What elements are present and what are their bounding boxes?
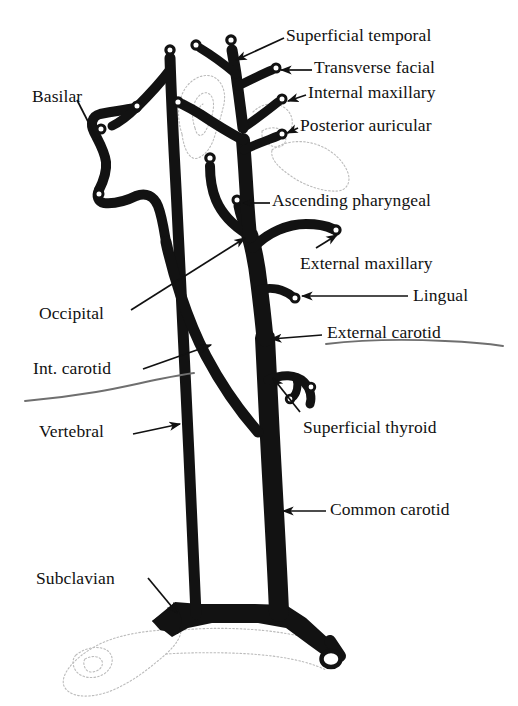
posterior-auricular-lumen-dot: [278, 130, 286, 138]
basilar-inferior-loop: [98, 190, 166, 242]
label-common-carotid: Common carotid: [330, 501, 450, 519]
leader-superficial-temporal: [236, 38, 284, 60]
label-ascending-pharyngeal: Ascending pharyngeal: [272, 192, 431, 210]
transverse-facial-artery: [238, 70, 272, 86]
label-lingual: Lingual: [413, 287, 468, 305]
leader-external-carotid: [271, 335, 322, 339]
label-vertebral: Vertebral: [39, 423, 104, 441]
leader-internal-maxillary: [288, 95, 306, 101]
figure-canvas: Superficial temporal Transverse facial I…: [0, 0, 518, 706]
vessel-lumen-opening: [322, 651, 341, 667]
clavicle-head-outline: [73, 648, 112, 678]
superficial-thyroid-lumen-dot-a: [307, 383, 315, 391]
label-superficial-temporal: Superficial temporal: [286, 27, 431, 45]
label-posterior-auricular: Posterior auricular: [300, 117, 432, 135]
subclavian-stump: [152, 604, 182, 634]
label-subclavian: Subclavian: [36, 570, 115, 588]
label-transverse-facial: Transverse facial: [314, 59, 435, 77]
basilar-tip-lumen-dot-left: [97, 125, 105, 133]
posterior-occipital-lumen-dot: [174, 98, 182, 106]
posterior-occipital-branch: [182, 104, 243, 140]
basilar-inferior-lumen-dot: [95, 190, 103, 198]
leader-basilar: [77, 100, 101, 147]
superficial-temporal-lumen-dot: [227, 36, 235, 44]
clavicle-head-inner-outline: [84, 657, 103, 672]
label-external-maxillary: External maxillary: [300, 255, 433, 273]
basilar-tip-lumen-dot-right: [133, 102, 141, 110]
label-basilar: Basilar: [32, 88, 82, 106]
external-maxillary-lumen-dot: [332, 226, 340, 234]
ascending-pharyngeal-lumen-dot: [233, 196, 241, 204]
label-superficial-thyroid: Superficial thyroid: [303, 419, 437, 437]
vertebral-lumen-dot: [166, 46, 174, 54]
leader-vertebral: [133, 424, 180, 434]
clavicle-bottom-outline: [166, 653, 326, 670]
clavicle-outline: [63, 630, 181, 696]
label-int-carotid: Int. carotid: [33, 360, 111, 378]
occipital-lumen-dot: [206, 154, 214, 162]
basilar-connector: [136, 70, 170, 108]
label-internal-maxillary: Internal maxillary: [308, 84, 436, 102]
leader-occipital: [131, 238, 245, 310]
internal-maxillary-lumen-dot: [278, 95, 286, 103]
label-external-carotid: External carotid: [327, 324, 441, 342]
label-occipital: Occipital: [39, 305, 104, 323]
lingual-lumen-dot: [291, 294, 299, 302]
leader-external-maxillary: [316, 235, 337, 248]
aortic-arch-base: [152, 602, 336, 658]
transverse-facial-lumen-dot: [272, 64, 280, 72]
internal-maxillary-artery: [243, 102, 278, 128]
jaw-body-outline: [272, 142, 349, 192]
leader-posterior-auricular: [287, 128, 298, 133]
leader-subclavian: [148, 578, 177, 613]
frontal-temporal-lumen-dot: [192, 41, 200, 49]
